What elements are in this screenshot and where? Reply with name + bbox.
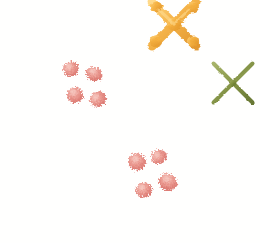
canvas-background (0, 0, 260, 243)
drawing-canvas[interactable]: Hand-drawn Marks Canvas (0, 0, 260, 243)
marks-layer (0, 0, 260, 243)
